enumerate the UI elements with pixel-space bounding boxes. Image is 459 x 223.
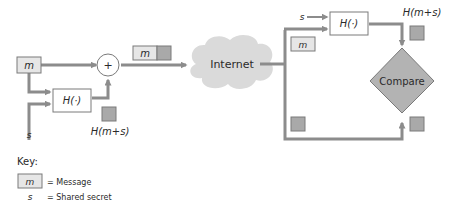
legend-item-secret: s = Shared secret bbox=[28, 192, 112, 202]
receiver-hash-output-label: H(m+s) bbox=[403, 7, 442, 18]
compare-label: Compare bbox=[379, 76, 424, 87]
internet-label: Internet bbox=[210, 58, 254, 71]
sender-hash-box: H(·) bbox=[53, 89, 91, 112]
receiver-hash-box: H(·) bbox=[330, 12, 368, 35]
internet-cloud: Internet bbox=[190, 35, 273, 89]
transmitted-packet: m bbox=[133, 46, 171, 60]
receiver-message-box: m bbox=[291, 37, 315, 51]
sender-hash-function-label: H(·) bbox=[63, 95, 82, 106]
sender-hash-output-label: H(m+s) bbox=[91, 126, 130, 137]
sender-secret-label: s bbox=[27, 130, 32, 140]
legend-message-description: = Message bbox=[47, 178, 91, 187]
packet-message-label: m bbox=[140, 48, 150, 59]
legend-title: Key: bbox=[17, 156, 38, 167]
concat-operator: + bbox=[97, 54, 119, 76]
legend-secret-symbol: s bbox=[28, 192, 33, 202]
hash-to-concat-line bbox=[92, 80, 108, 98]
concat-symbol: + bbox=[103, 59, 112, 72]
received-hash-square-compare bbox=[410, 117, 424, 131]
receiver-hash-function-label: H(·) bbox=[340, 18, 359, 29]
sender-message-box: m bbox=[17, 57, 41, 73]
computed-hash-to-compare-line bbox=[369, 24, 402, 45]
receiver-secret-label: s bbox=[300, 12, 305, 22]
legend-message-symbol: m bbox=[26, 177, 35, 187]
receiver-message-label: m bbox=[299, 40, 308, 50]
sender-hash-output-square bbox=[102, 107, 116, 121]
message-to-hash-line bbox=[29, 73, 50, 92]
mac-diagram: m + H(·) H(m+s) s m Internet s H(·) bbox=[0, 0, 459, 223]
legend-item-message: m = Message bbox=[18, 174, 91, 188]
secret-to-hash-line bbox=[29, 104, 50, 140]
received-hash-square bbox=[291, 117, 305, 131]
receiver-computed-hash-square bbox=[410, 26, 424, 40]
sender-message-label: m bbox=[24, 60, 34, 71]
compare-diamond: Compare bbox=[370, 48, 434, 113]
legend: Key: m = Message s = Shared secret bbox=[17, 156, 112, 202]
legend-secret-description: = Shared secret bbox=[47, 193, 112, 202]
